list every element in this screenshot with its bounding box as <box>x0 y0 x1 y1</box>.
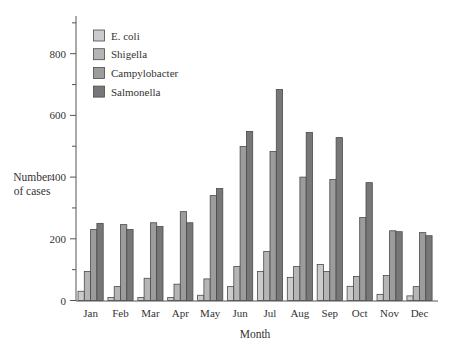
bar-salmonella-jan <box>97 223 103 300</box>
bar-group-jul <box>257 89 282 300</box>
bar-campylobacter-sep <box>330 180 336 301</box>
bar-salmonella-apr <box>187 223 193 301</box>
bar-e-coli-may <box>198 295 204 300</box>
x-tick-label-dec: Dec <box>411 307 429 319</box>
y-axis-title-line-2: of cases <box>14 185 51 197</box>
bar-shigella-jul <box>264 251 270 300</box>
x-tick-label-feb: Feb <box>112 307 129 319</box>
bar-salmonella-jun <box>246 131 252 300</box>
bar-group-apr <box>168 212 193 301</box>
bar-group-sep <box>317 138 342 301</box>
legend-swatch-shigella <box>94 49 105 60</box>
bar-campylobacter-feb <box>121 225 127 301</box>
bar-shigella-dec <box>413 287 419 301</box>
legend-label-shigella: Shigella <box>111 48 147 60</box>
x-tick-label-jan: Jan <box>83 307 98 319</box>
legend-label-salmonella: Salmonella <box>111 86 161 98</box>
x-axis-title: Month <box>240 328 271 340</box>
bar-salmonella-jul <box>276 89 282 300</box>
legend-label-e-coli: E. coli <box>111 30 140 42</box>
y-tick-label-200: 200 <box>50 233 67 245</box>
bar-salmonella-aug <box>306 132 312 300</box>
bar-group-jan <box>78 223 103 300</box>
x-tick-label-apr: Apr <box>172 307 189 319</box>
bar-e-coli-feb <box>108 297 114 300</box>
bar-group-oct <box>347 183 372 301</box>
bar-shigella-oct <box>353 276 359 300</box>
x-tick-label-mar: Mar <box>141 307 160 319</box>
bar-shigella-apr <box>174 284 180 300</box>
bar-group-aug <box>287 132 312 300</box>
bar-e-coli-dec <box>407 296 413 301</box>
bar-salmonella-sep <box>336 138 342 301</box>
bar-salmonella-mar <box>157 226 163 300</box>
bar-shigella-sep <box>324 272 330 301</box>
x-axis-tick-labels: JanFebMarAprMayJunJulAugSepOctNovDec <box>83 307 428 319</box>
x-tick-label-aug: Aug <box>290 307 309 319</box>
bar-shigella-nov <box>383 276 389 301</box>
y-tick-label-400: 400 <box>50 171 67 183</box>
x-tick-label-nov: Nov <box>380 307 399 319</box>
bar-e-coli-aug <box>287 277 293 300</box>
bar-shigella-mar <box>144 278 150 300</box>
bar-campylobacter-oct <box>360 218 366 301</box>
bar-shigella-aug <box>294 267 300 301</box>
y-tick-label-0: 0 <box>61 295 67 307</box>
legend-swatch-campylobacter <box>94 67 105 78</box>
bar-salmonella-dec <box>426 236 432 301</box>
bar-e-coli-sep <box>317 264 323 300</box>
x-tick-label-sep: Sep <box>322 307 339 319</box>
x-tick-label-oct: Oct <box>352 307 368 319</box>
bar-shigella-jun <box>234 267 240 301</box>
bar-group-dec <box>407 233 432 301</box>
bar-series-group <box>78 89 432 300</box>
x-tick-label-jul: Jul <box>264 307 277 319</box>
bar-campylobacter-dec <box>420 233 426 301</box>
bar-campylobacter-aug <box>300 177 306 300</box>
bar-campylobacter-jul <box>270 151 276 300</box>
bar-salmonella-nov <box>396 232 402 301</box>
y-tick-label-800: 800 <box>50 48 67 60</box>
grouped-bar-chart: 0200400600800 JanFebMarAprMayJunJulAugSe… <box>0 0 453 350</box>
bar-campylobacter-may <box>210 196 216 301</box>
y-tick-label-600: 600 <box>50 109 67 121</box>
bar-e-coli-oct <box>347 286 353 300</box>
bar-group-feb <box>108 225 133 301</box>
bar-campylobacter-nov <box>390 231 396 301</box>
bar-group-jun <box>228 131 253 300</box>
bar-group-may <box>198 189 223 301</box>
legend-label-campylobacter: Campylobacter <box>111 67 179 79</box>
bar-salmonella-feb <box>127 230 133 301</box>
bar-campylobacter-jan <box>91 230 97 301</box>
y-axis-ticks: 0200400600800 <box>50 23 77 307</box>
bar-e-coli-jun <box>228 287 234 301</box>
bar-group-nov <box>377 231 402 301</box>
bar-e-coli-jan <box>78 291 84 300</box>
bar-shigella-jan <box>84 272 90 301</box>
bar-e-coli-apr <box>168 297 174 300</box>
legend-swatch-salmonella <box>94 86 105 97</box>
bar-e-coli-jul <box>257 272 263 301</box>
legend: E. coliShigellaCampylobacterSalmonella <box>94 30 179 98</box>
bar-campylobacter-apr <box>180 212 186 301</box>
bar-e-coli-mar <box>138 297 144 300</box>
legend-swatch-e-coli <box>94 30 105 41</box>
bar-campylobacter-jun <box>240 147 246 301</box>
x-tick-label-jun: Jun <box>232 307 248 319</box>
bar-salmonella-oct <box>366 183 372 301</box>
bar-e-coli-nov <box>377 294 383 300</box>
bar-shigella-feb <box>114 287 120 301</box>
bar-group-mar <box>138 223 163 301</box>
bar-shigella-may <box>204 279 210 301</box>
y-axis-title-line-1: Number <box>13 171 51 183</box>
x-tick-label-may: May <box>200 307 221 319</box>
bar-salmonella-may <box>217 189 223 301</box>
bar-campylobacter-mar <box>150 223 156 301</box>
